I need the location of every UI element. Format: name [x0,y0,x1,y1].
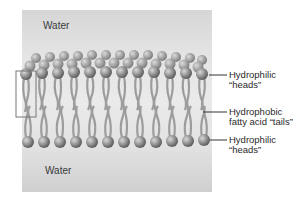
label-hydrophobic-tails: Hydrophobic fatty acid “tails” [229,107,293,127]
phospholipid-bilayer [0,0,304,199]
label-line: fatty acid “tails” [229,117,293,127]
fatty-acid-tails [23,76,207,138]
label-line: “heads” [229,145,276,155]
label-hydrophilic-heads-bottom: Hydrophilic “heads” [229,135,276,155]
hydrophilic-heads-bottom [22,134,210,148]
label-hydrophilic-heads-top: Hydrophilic “heads” [229,70,276,90]
hydrophilic-heads-back-rows [25,50,208,73]
label-line: “heads” [229,80,276,90]
